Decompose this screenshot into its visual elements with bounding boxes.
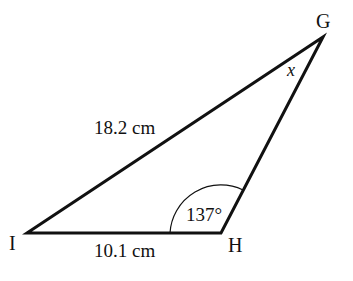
vertex-label-H: H <box>228 234 242 256</box>
side-label-IH: 10.1 cm <box>94 240 155 261</box>
vertex-label-I: I <box>9 232 16 254</box>
triangle-GHI <box>27 37 323 233</box>
angle-label-G: x <box>286 60 295 80</box>
side-label-IG: 18.2 cm <box>94 117 155 138</box>
triangle-diagram: G H I 18.2 cm 10.1 cm 137° x <box>0 0 353 281</box>
vertex-label-G: G <box>316 10 330 32</box>
angle-label-H: 137° <box>186 204 222 225</box>
